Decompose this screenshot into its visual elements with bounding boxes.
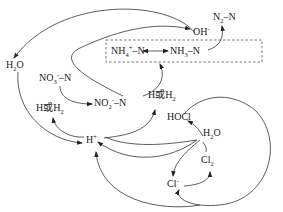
label-no2-n: NO2-–N bbox=[94, 98, 126, 108]
arrow-no2-to-oh bbox=[72, 26, 190, 96]
line-h2o-to-cl2 bbox=[203, 142, 206, 152]
label-h-plus: H+ bbox=[86, 135, 97, 145]
label-h2o-left: H2O bbox=[6, 60, 24, 70]
label-cl2: Cl2 bbox=[201, 155, 214, 165]
label-h2o-right: H2O bbox=[203, 128, 221, 138]
arrow-hocl-to-hplus bbox=[98, 140, 197, 157]
label-n2-n: N2–N bbox=[213, 12, 236, 22]
arrow-cl-to-cl2 bbox=[184, 172, 210, 186]
arrow-bottom-to-hplus bbox=[96, 152, 200, 207]
arrow-hplus-to-h-right bbox=[104, 110, 155, 138]
label-hocl: HOCl bbox=[167, 112, 191, 122]
label-cl-minus: Cl- bbox=[167, 179, 179, 189]
arrow-h2o-to-cl bbox=[173, 140, 200, 176]
arrow-no3-to-no2 bbox=[60, 86, 92, 104]
label-h-or-h2-left: H或H2 bbox=[36, 103, 64, 113]
arrow-nh3-to-n2 bbox=[208, 26, 222, 50]
label-nh4-n: NH4+–N bbox=[111, 46, 145, 56]
arrow-hplus-to-h-left bbox=[53, 118, 84, 137]
label-nh3-n: NH3–N bbox=[170, 46, 200, 56]
label-oh-minus: OH- bbox=[193, 27, 210, 37]
label-no3-n: NO3-–N bbox=[39, 73, 71, 83]
arrow-h2o-to-hocl bbox=[188, 121, 203, 136]
arrow-loop-to-hplus bbox=[105, 137, 197, 145]
arc-right-circle bbox=[178, 97, 270, 205]
label-h-or-h2-right: H或H2 bbox=[148, 90, 176, 100]
